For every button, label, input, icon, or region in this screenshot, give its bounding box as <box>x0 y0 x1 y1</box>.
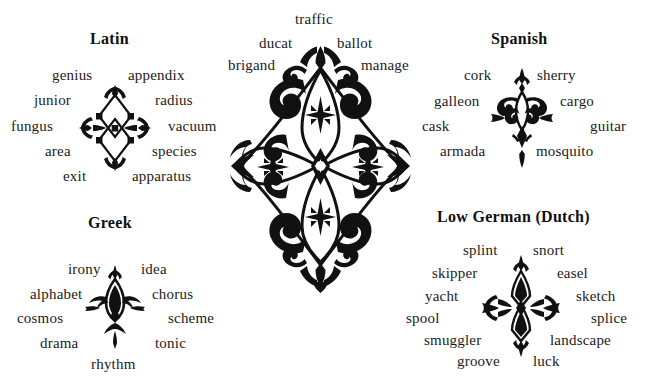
latin-word-genius: genius <box>52 68 92 83</box>
greek-word-chorus: chorus <box>152 287 193 302</box>
diagram-canvas: Latin genius junior fungus area exit app… <box>0 0 645 380</box>
greek-heading: Greek <box>88 215 132 231</box>
greek-word-drama: drama <box>40 336 78 351</box>
latin-word-vacuum: vacuum <box>168 119 217 134</box>
low-german-heading: Low German (Dutch) <box>437 209 590 225</box>
latin-word-appendix: appendix <box>128 68 185 83</box>
spanish-ornament <box>487 68 557 168</box>
latin-word-species: species <box>152 144 197 159</box>
spanish-word-galleon: galleon <box>434 94 480 109</box>
center-word-traffic: traffic <box>295 12 333 27</box>
latin-word-area: area <box>45 144 71 159</box>
greek-word-rhythm: rhythm <box>91 357 136 372</box>
latin-word-radius: radius <box>155 93 193 108</box>
greek-word-cosmos: cosmos <box>17 311 63 326</box>
greek-word-alphabet: alphabet <box>30 287 82 302</box>
german-word-yacht: yacht <box>425 289 458 304</box>
german-word-splice: splice <box>591 311 627 326</box>
spanish-word-armada: armada <box>440 144 485 159</box>
german-word-spool: spool <box>406 311 440 326</box>
latin-heading: Latin <box>90 31 129 47</box>
german-word-easel: easel <box>557 266 588 281</box>
latin-word-apparatus: apparatus <box>132 169 191 184</box>
greek-ornament <box>82 265 148 349</box>
greek-word-scheme: scheme <box>168 311 214 326</box>
spanish-word-guitar: guitar <box>590 119 626 134</box>
spanish-heading: Spanish <box>491 31 547 47</box>
latin-word-exit: exit <box>63 169 86 184</box>
german-word-sketch: sketch <box>576 289 616 304</box>
low-german-ornament <box>482 255 560 357</box>
center-ornament <box>228 40 413 293</box>
german-word-skipper: skipper <box>432 266 478 281</box>
spanish-word-cargo: cargo <box>560 94 594 109</box>
latin-ornament <box>79 85 151 171</box>
latin-word-junior: junior <box>34 93 71 108</box>
spanish-word-cask: cask <box>422 119 449 134</box>
latin-word-fungus: fungus <box>11 119 53 134</box>
greek-word-tonic: tonic <box>155 336 186 351</box>
german-word-smuggler: smuggler <box>424 333 481 348</box>
